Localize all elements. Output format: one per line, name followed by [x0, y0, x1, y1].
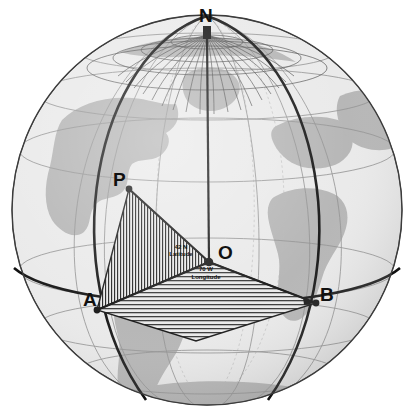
label-center-o: O: [218, 243, 233, 262]
dot-p: [126, 186, 133, 193]
dot-o: [205, 258, 213, 266]
label-north-pole: N: [199, 6, 213, 25]
globe-svg: [0, 0, 417, 414]
landmass-antarctic: [140, 381, 356, 414]
marker-n: [203, 26, 211, 39]
longitude-name-label: Longitude: [180, 274, 232, 280]
label-point-p: P: [113, 170, 126, 189]
globe-diagram-figure: N P O A B 42 N Latitude 70 W Longitude: [0, 0, 417, 414]
latitude-value-label: 42 N: [160, 244, 202, 250]
longitude-value-label: 70 W: [185, 266, 227, 272]
label-point-a: A: [83, 290, 97, 309]
label-point-b: B: [320, 285, 334, 304]
dot-b: [313, 300, 320, 307]
latitude-name-label: Latitude: [156, 251, 206, 257]
